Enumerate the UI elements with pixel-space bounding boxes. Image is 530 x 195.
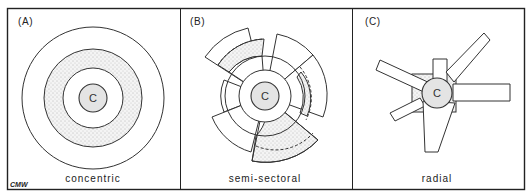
panel-label: (B) bbox=[190, 16, 205, 27]
panel-caption: radial bbox=[422, 173, 452, 184]
panel-a-concentric: (A) C concentric CMW bbox=[10, 16, 164, 188]
panel-label: (A) bbox=[18, 16, 33, 27]
panel-caption: semi-sectoral bbox=[229, 173, 301, 184]
panel-label: (C) bbox=[365, 16, 381, 27]
signature: CMW bbox=[10, 181, 29, 188]
urban-structure-diagram: (A) C concentric CMW (B) bbox=[0, 0, 530, 195]
core-label: C bbox=[261, 90, 269, 102]
panel-caption: concentric bbox=[65, 173, 121, 184]
panel-b-semi-sectoral: (B) C semi-sectoral bbox=[190, 16, 327, 184]
core-label: C bbox=[89, 92, 97, 104]
core-label: C bbox=[433, 87, 441, 99]
panel-c-radial: (C) C radial bbox=[365, 16, 510, 184]
